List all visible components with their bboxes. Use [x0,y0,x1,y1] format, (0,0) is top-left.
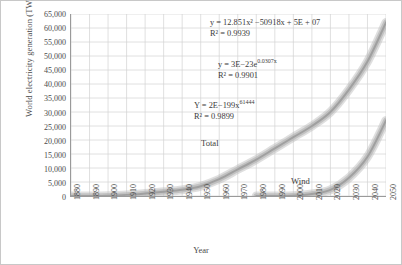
x-tick-label: 1980 [259,184,268,200]
eq-total-poly-line1: y = 12.851x² −50918x + 5E + 07 [210,18,320,27]
eq-total-exp-line2: R² = 0.9901 [218,71,258,80]
x-tick-label: 1940 [185,184,194,200]
annotation-wind-power: Y = 2E−199x61444 R² = 0.9899 [194,99,254,122]
x-tick-label: 2030 [352,184,361,200]
x-tick-label: 2000 [296,184,305,200]
chart-container: World electricity generation (TWh) 05,00… [0,0,402,265]
x-tick-label: 1970 [240,184,249,200]
x-tick-label: 1900 [110,184,119,200]
x-tick-label: 1950 [203,184,212,200]
eq-wind-line1: Y = 2E−199x [194,101,239,110]
label-wind: Wind [291,176,310,186]
x-tick-label: 1990 [278,184,287,200]
x-tick-label: 1920 [148,184,157,200]
annotation-total-polynomial: y = 12.851x² −50918x + 5E + 07 R² = 0.99… [210,17,320,39]
x-tick-label: 2040 [371,184,380,200]
x-tick-label: 2050 [389,184,398,200]
label-total: Total [201,138,219,148]
x-tick-label: 1880 [73,184,82,200]
x-axis-title: Year [0,245,402,255]
eq-total-exp-line1: y = 3E−23e [218,60,257,69]
eq-wind-exponent: 61444 [239,99,254,105]
x-tick-label: 1930 [166,184,175,200]
x-tick-label: 2020 [333,184,342,200]
eq-total-poly-line2: R² = 0.9939 [210,29,250,38]
x-tick-label: 2010 [315,184,324,200]
annotation-total-exponential: y = 3E−23e0.0307x R² = 0.9901 [218,58,277,81]
x-tick-label: 1910 [129,184,138,200]
eq-total-exp-exponent: 0.0307x [257,58,277,64]
x-axis-tick-labels: 1880189019001910192019301940195019601970… [0,0,402,265]
x-tick-label: 1890 [92,184,101,200]
x-tick-label: 1960 [222,184,231,200]
eq-wind-line2: R² = 0.9899 [194,112,234,121]
